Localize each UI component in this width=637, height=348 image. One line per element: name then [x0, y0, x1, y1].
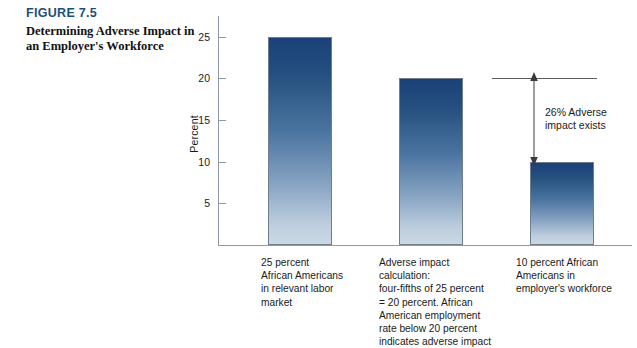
y-tick-25 [219, 37, 226, 38]
y-tick-label-text: 5 [182, 198, 210, 208]
y-tick-20 [219, 78, 226, 79]
reference-line-20-percent [492, 78, 597, 79]
y-tick-label-text: 25 [182, 32, 210, 42]
bar-2 [530, 162, 594, 245]
y-tick-label-text: 10 [182, 157, 210, 167]
y-tick-label-text: 20 [182, 73, 210, 83]
y-tick-label-15: 15 [182, 115, 210, 125]
y-axis-line [218, 16, 219, 246]
adverse-impact-annotation-label: 26% Adverseimpact exists [545, 106, 631, 132]
y-tick-label-25: 25 [182, 32, 210, 42]
y-tick-10 [219, 162, 226, 163]
y-tick-label-text: 15 [182, 115, 210, 125]
category-label-2: 10 percent AfricanAmericans inemployer's… [516, 256, 631, 296]
category-label-1: Adverse impactcalculation:four-fifths of… [379, 256, 504, 348]
y-tick-label-5: 5 [182, 198, 210, 208]
y-tick-5 [219, 203, 226, 204]
y-tick-label-20: 20 [182, 73, 210, 83]
y-tick-15 [219, 120, 226, 121]
y-tick-label-10: 10 [182, 157, 210, 167]
x-axis-line [218, 245, 632, 246]
category-label-0: 25 percentAfrican Americansin relevant l… [261, 256, 371, 309]
bar-1 [399, 78, 463, 245]
double-headed-arrow-icon [526, 72, 542, 166]
bar-0 [268, 37, 332, 245]
